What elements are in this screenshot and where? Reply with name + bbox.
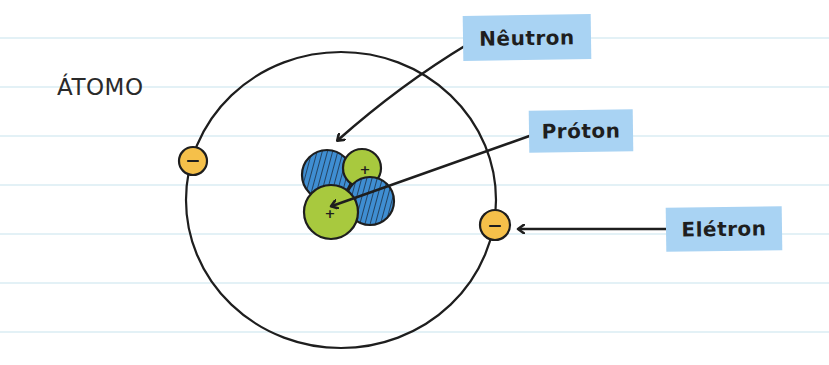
proton-charge: + [325, 206, 336, 221]
proton-label: Próton [529, 109, 634, 152]
electron-label: Elétron [666, 206, 783, 252]
atom-diagram: + + [0, 0, 829, 365]
proton-charge: + [360, 162, 371, 177]
electron-right [480, 210, 510, 240]
nucleus: + + [302, 149, 394, 239]
electron-left [179, 147, 207, 175]
neutron-label: Nêutron [463, 14, 592, 61]
